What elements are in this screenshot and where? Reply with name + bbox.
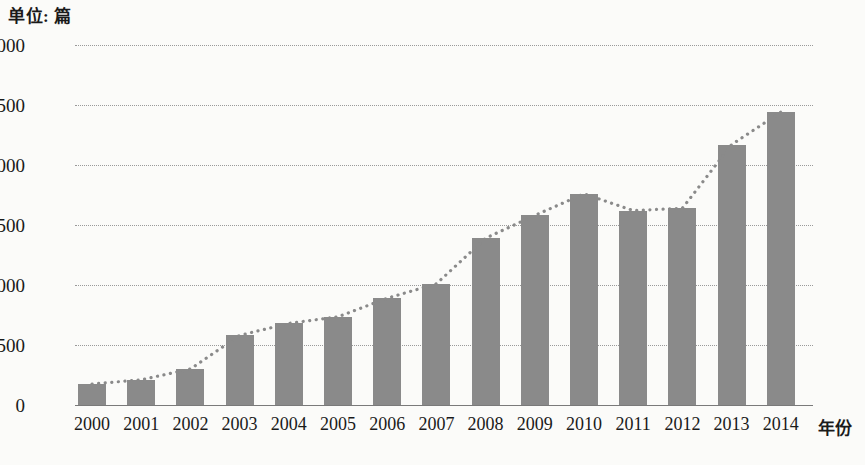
bar [275,323,303,405]
bar [373,298,401,405]
y-axis-tick-label: 1000 [0,276,25,295]
y-axis-tick-label: 500 [0,336,25,355]
gridline [75,45,813,46]
y-axis-tick-label: 2500 [0,96,25,115]
bar [472,238,500,405]
gridline [75,225,813,226]
bar [422,284,450,405]
bar [668,208,696,405]
bar [619,211,647,405]
plot-area: 050010001500200025003000 [75,45,813,405]
gridline [75,105,813,106]
y-axis-tick-label: 1500 [0,216,25,235]
y-axis-tick-label: 0 [0,396,25,415]
bar [324,317,352,405]
y-axis-tick-label: 3000 [0,36,25,55]
x-axis-title: 年份 [818,414,852,439]
bar [521,215,549,405]
bar [767,112,795,405]
bar [78,384,106,405]
gridline [75,405,813,406]
bar [176,369,204,405]
bar [718,145,746,405]
bar [226,335,254,405]
y-axis-tick-label: 2000 [0,156,25,175]
bar [127,380,155,405]
gridline [75,165,813,166]
chart-page: 单位: 篇 050010001500200025003000 200020012… [0,0,865,465]
bar [570,194,598,405]
x-axis-tick-label: 2014 [751,414,811,435]
y-axis-unit-label: 单位: 篇 [8,2,71,27]
